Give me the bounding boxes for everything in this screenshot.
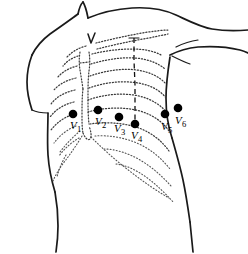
electrode-dot-v5[interactable] (161, 110, 170, 119)
rib-8-right (59, 138, 79, 156)
sternum-left-edge (82, 89, 83, 133)
electrode-label-v5-subscript: 5 (168, 125, 172, 135)
electrode-dot-v1[interactable] (69, 110, 78, 119)
right-arm-fold-detail (176, 40, 198, 47)
electrode-label-v2-subscript: 2 (102, 120, 106, 130)
rib-4-right (51, 90, 75, 104)
left-shoulder-slope (32, 14, 78, 55)
electrode-label-v5: V 5 (161, 120, 172, 135)
right-shoulder-top-outline (88, 8, 248, 31)
suprasternal-notch-icon (88, 33, 95, 43)
right-hip-outline (190, 222, 193, 252)
electrode-label-v1: V 1 (70, 119, 81, 134)
electrode-label-v6: V 6 (175, 114, 186, 129)
electrode-labels-group: V 1 V 2 V 3 V 4 V 5 V 6 (70, 114, 186, 144)
costal-margin-left (91, 137, 169, 198)
electrode-label-v2: V 2 (95, 115, 106, 130)
sternal-angle (80, 62, 89, 63)
rib-1-right (63, 56, 78, 66)
rib-detail-right-lower (57, 155, 66, 177)
electrode-dot-v3[interactable] (115, 113, 124, 122)
left-clavicle (67, 46, 86, 57)
anatomy-drawing: V 1 V 2 V 3 V 4 V 5 V 6 (0, 0, 248, 254)
manubrium-outline (79, 52, 83, 89)
electrode-dot-v2[interactable] (94, 106, 103, 115)
patient-right-ribcage (50, 56, 82, 181)
rib-2-left (91, 58, 165, 69)
rib-2-right (57, 66, 77, 78)
ecg-electrode-placement-figure: V 1 V 2 V 3 V 4 V 5 V 6 (0, 0, 248, 254)
left-armpit-outline (32, 110, 48, 113)
rib-3-right (53, 78, 76, 91)
electrode-dot-v6[interactable] (174, 104, 183, 113)
right-flank-outline (172, 138, 190, 222)
costal-margin-right (53, 136, 82, 181)
right-clavicle-lower-edge (97, 34, 168, 49)
electrode-label-v6-subscript: 6 (182, 119, 186, 129)
electrode-label-v4-subscript: 4 (138, 134, 143, 144)
suprasternal-notch-group (88, 33, 95, 43)
electrode-label-v3-subscript: 3 (121, 127, 125, 137)
midclavicular-line (134, 38, 135, 121)
rib-10-left (116, 164, 174, 203)
electrode-dot-v4[interactable] (131, 120, 140, 129)
clavicle-group (67, 30, 168, 57)
rib-1-left (92, 49, 161, 55)
right-armpit-crease (170, 47, 248, 55)
right-arm-inner-fold (172, 56, 190, 64)
xiphoid-process (83, 126, 91, 140)
electrode-label-v1-subscript: 1 (77, 124, 81, 134)
neck-right-shoulder-outline (83, 2, 88, 18)
left-flank-outline (55, 192, 58, 252)
rib-9-left (104, 149, 171, 186)
left-arm-outer-outline (27, 55, 32, 110)
neck-left-outline (78, 2, 83, 14)
